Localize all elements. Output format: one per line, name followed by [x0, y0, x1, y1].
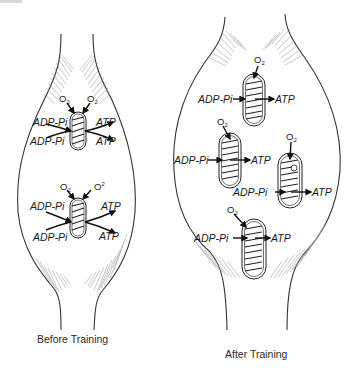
after-training-fibre: O2 ADP-Pi ATP O2 ADP-Pi ATP O2 ADP-Pi AT… — [173, 14, 340, 360]
o2-label: O2 — [286, 131, 297, 143]
mitochondrion-after-3 — [275, 142, 311, 208]
before-training-caption: Before Training — [37, 333, 108, 345]
adp-pi-label: ADP-Pi — [232, 186, 268, 198]
adp-pi-label: ADP-Pi — [32, 231, 68, 243]
after-training-caption: After Training — [225, 348, 288, 360]
muscle-fibre-diagram: O2 O2 ADP-Pi ADP-Pi ATP ATP O2 O2 ADP-Pi… — [0, 0, 352, 371]
atp-label: ATP — [270, 232, 291, 244]
o2-label: O2 — [59, 93, 70, 105]
o2-label: O2 — [254, 54, 265, 66]
adp-pi-label: ADP-Pi — [29, 135, 65, 147]
o2-label: O2 — [60, 181, 71, 193]
atp-label: ATP — [98, 230, 119, 242]
o2-label: O2 — [94, 181, 105, 192]
o2-label: O2 — [87, 93, 98, 105]
o2-label: O2 — [227, 204, 238, 216]
mitochondrion-after-2 — [208, 126, 250, 188]
adp-pi-label: ADP-Pi — [173, 154, 209, 166]
adp-pi-label: ADP-Pi — [32, 116, 68, 128]
mitochondrion-after-1 — [233, 66, 274, 126]
atp-label: ATP — [311, 186, 332, 198]
atp-label: ATP — [95, 116, 116, 128]
o2-label: O2 — [217, 116, 228, 128]
adp-pi-label: ADP-Pi — [29, 200, 65, 212]
adp-pi-label: ADP-Pi — [193, 232, 229, 244]
atp-label: ATP — [95, 135, 116, 147]
before-training-fibre: O2 O2 ADP-Pi ADP-Pi ATP ATP O2 O2 ADP-Pi… — [18, 34, 136, 345]
mitochondrion-after-4 — [233, 214, 270, 279]
atp-label: ATP — [274, 93, 295, 105]
adp-pi-label: ADP-Pi — [197, 93, 233, 105]
atp-label: ATP — [100, 200, 121, 212]
atp-label: ATP — [250, 154, 271, 166]
